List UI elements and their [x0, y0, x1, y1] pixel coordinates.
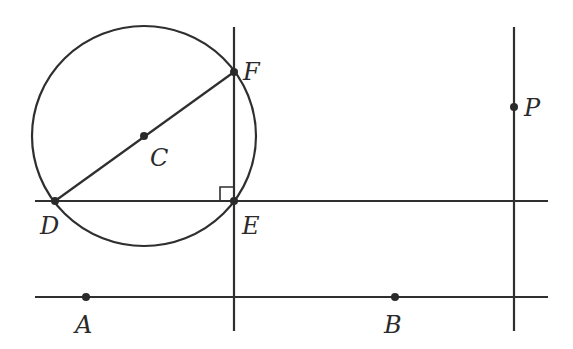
point-a	[82, 293, 90, 301]
label-a: A	[73, 311, 92, 339]
point-d	[51, 197, 59, 205]
label-f: F	[242, 58, 261, 86]
geometry-diagram: C F D E A B P	[0, 0, 573, 349]
label-d: D	[39, 212, 59, 240]
point-f	[230, 68, 238, 76]
point-p	[510, 103, 518, 111]
point-b	[391, 293, 399, 301]
label-c: C	[150, 144, 168, 172]
label-p: P	[523, 94, 541, 122]
point-c	[140, 132, 148, 140]
label-e: E	[241, 212, 260, 240]
label-b: B	[383, 311, 402, 339]
point-e	[230, 197, 238, 205]
diagram-svg: C F D E A B P	[0, 0, 573, 349]
